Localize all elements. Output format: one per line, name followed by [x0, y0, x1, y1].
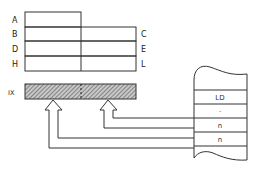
register-a: [25, 12, 81, 27]
arrow-low-byte: [100, 100, 194, 128]
label-c: C: [141, 30, 147, 39]
memory-cell-n-low: n: [218, 122, 222, 130]
register-file: [25, 12, 136, 71]
label-b: B: [12, 30, 18, 39]
label-ix: IX: [8, 89, 15, 97]
label-e: E: [141, 45, 146, 54]
memory-cell-n-high: n: [218, 136, 222, 144]
label-a: A: [12, 16, 18, 25]
ix-addressing-diagram: A B D H C E L IX LD · n n: [0, 0, 261, 169]
label-d: D: [12, 45, 18, 54]
register-left-labels: A B D H: [12, 16, 18, 69]
memory-bottom-wave: [194, 152, 247, 161]
memory-cells: LD · n n: [215, 94, 224, 144]
memory-cell-operand: ·: [219, 108, 221, 116]
label-h: H: [12, 60, 18, 69]
label-l: L: [141, 60, 146, 69]
memory-top-wave: [194, 66, 247, 80]
memory-cell-opcode: LD: [215, 94, 224, 102]
register-right-labels: C E L: [141, 30, 147, 69]
arrow-high-byte: [45, 100, 194, 148]
